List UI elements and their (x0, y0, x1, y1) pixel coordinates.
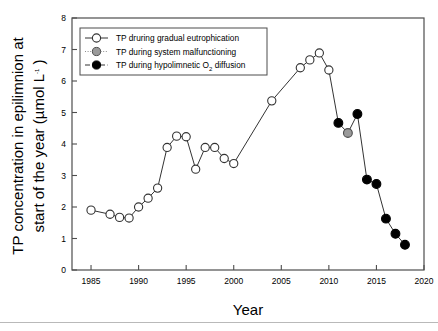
legend-label-hypolimnetic-o2-diffusion: TP during hypolimnetic O2 diffusion (116, 60, 246, 72)
gray-circle-point[interactable] (343, 129, 352, 138)
y-tick-label: 8 (61, 13, 66, 23)
black-circle-point[interactable] (401, 240, 410, 249)
y-axis-title-line1: TP concentration in epilimnion at (9, 37, 26, 255)
y-tick-label: 4 (61, 139, 66, 149)
y-tick-label: 5 (61, 108, 66, 118)
open-circle-point[interactable] (173, 132, 181, 140)
black-circle-point[interactable] (334, 119, 343, 128)
black-circle-point[interactable] (353, 110, 362, 119)
black-circle-point[interactable] (372, 180, 381, 189)
black-circle-point[interactable] (391, 229, 400, 238)
x-axis-title: Year (233, 301, 263, 318)
y-axis-title-line2-pre: start of the year ( (30, 119, 47, 232)
open-circle-point[interactable] (325, 66, 333, 74)
open-circle-point[interactable] (154, 184, 162, 192)
y-axis-title-mu: µmol L (30, 74, 47, 119)
open-circle-marker (92, 34, 100, 42)
black-circle-point[interactable] (363, 175, 372, 184)
tp-concentration-line-chart: 012345678 198519901995200020052010201520… (0, 0, 438, 331)
y-tick-label: 3 (61, 171, 66, 181)
legend-label-o2-pre: TP during hypolimnetic O (116, 60, 210, 70)
data-polyline (91, 53, 405, 245)
open-circle-point[interactable] (125, 214, 133, 222)
open-circle-point[interactable] (192, 165, 200, 173)
x-tick-label: 2010 (319, 276, 338, 286)
y-tick-label: 0 (61, 265, 66, 275)
y-axis-title: TP concentration in epilimnion at start … (9, 37, 47, 255)
legend-label-system-malfunctioning: TP during system malfunctioning (116, 47, 237, 57)
open-circle-point[interactable] (201, 143, 209, 151)
series-markers (87, 49, 409, 249)
open-circle-point[interactable] (230, 159, 238, 167)
x-tick-label: 2015 (367, 276, 386, 286)
gray-circle-marker (92, 47, 100, 55)
open-circle-point[interactable] (296, 64, 304, 72)
x-tick-label: 2005 (272, 276, 291, 286)
y-tick-label: 1 (61, 234, 66, 244)
black-circle-point[interactable] (382, 214, 391, 223)
open-circle-point[interactable] (315, 49, 323, 57)
open-circle-point[interactable] (134, 203, 142, 211)
open-circle-point[interactable] (87, 206, 95, 214)
open-circle-point[interactable] (306, 56, 314, 64)
open-circle-point[interactable] (106, 210, 114, 218)
x-tick-label: 1990 (129, 276, 148, 286)
open-circle-point[interactable] (115, 213, 123, 221)
series-polyline (91, 53, 405, 245)
open-circle-point[interactable] (268, 97, 276, 105)
legend-label-gradual-eutrophication: TP druring gradual eutrophication (116, 33, 239, 43)
open-circle-point[interactable] (211, 143, 219, 151)
figure-bottom-rule (0, 322, 438, 323)
open-circle-point[interactable] (220, 154, 228, 162)
open-circle-point[interactable] (182, 133, 190, 141)
open-circle-point[interactable] (163, 143, 171, 151)
y-tick-label: 2 (61, 202, 66, 212)
legend: TP druring gradual eutrophication TP dur… (80, 28, 267, 75)
x-tick-label: 1995 (177, 276, 196, 286)
y-axis-title-line2: start of the year (µmol L-1 ) (30, 59, 47, 232)
x-axis-ticks: 19851990199520002005201020152020 (82, 265, 434, 286)
y-tick-label: 7 (61, 45, 66, 55)
black-circle-marker (92, 61, 100, 69)
x-tick-label: 2020 (415, 276, 434, 286)
y-tick-label: 6 (61, 76, 66, 86)
figure-container: 012345678 198519901995200020052010201520… (0, 0, 438, 331)
legend-label-o2-post: diffusion (212, 60, 245, 70)
open-circle-point[interactable] (144, 194, 152, 202)
x-tick-label: 2000 (224, 276, 243, 286)
x-tick-label: 1985 (82, 276, 101, 286)
y-axis-title-post: ) (30, 59, 47, 68)
y-axis-ticks: 012345678 (61, 13, 77, 275)
